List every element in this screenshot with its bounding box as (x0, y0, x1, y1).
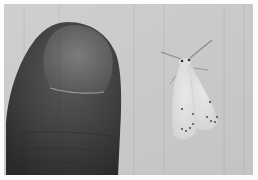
photo-illustration (4, 4, 253, 175)
photograph (4, 4, 253, 175)
photo-frame: Grayscale photo of a thumb next to a sma… (0, 0, 258, 180)
